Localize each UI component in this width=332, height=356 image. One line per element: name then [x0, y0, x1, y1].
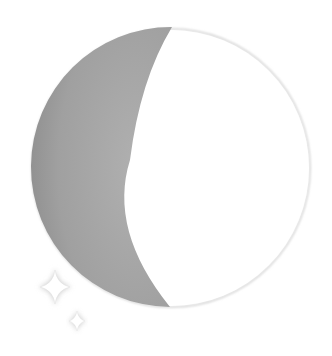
sparkle-icon	[38, 268, 72, 306]
sparkle-icon	[68, 310, 86, 332]
moon-illustration	[0, 0, 332, 356]
moon-icon	[31, 27, 310, 307]
